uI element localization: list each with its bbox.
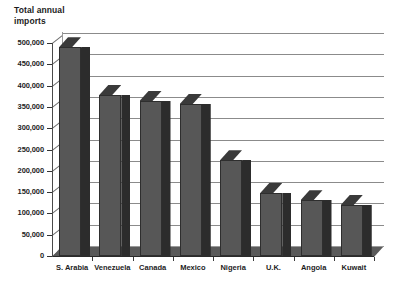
x-axis-label: Mexico bbox=[180, 263, 205, 272]
y-axis-tick bbox=[47, 150, 52, 151]
x-axis-tick bbox=[294, 257, 295, 261]
bar-angola[interactable] bbox=[301, 190, 323, 256]
y-axis-tick bbox=[47, 235, 52, 236]
bar-front-face bbox=[341, 205, 363, 256]
bar-front-face bbox=[99, 95, 121, 256]
y-axis-label: 100,000 bbox=[18, 208, 44, 217]
chart-screenshot: Total annual imports 050,000100,000150,0… bbox=[0, 0, 400, 286]
gridline bbox=[62, 54, 384, 55]
x-axis-tick bbox=[334, 257, 335, 261]
bar-front-face bbox=[301, 200, 323, 256]
bar-mexico[interactable] bbox=[180, 94, 202, 256]
bar-top-face bbox=[140, 91, 162, 101]
gridline bbox=[62, 33, 384, 34]
bar-front-face bbox=[260, 193, 282, 256]
y-axis-label: 350,000 bbox=[18, 102, 44, 111]
y-axis-tick bbox=[47, 213, 52, 214]
y-axis-tick bbox=[47, 128, 52, 129]
bar-u-k[interactable] bbox=[260, 183, 282, 256]
bar-side-face bbox=[363, 205, 372, 256]
bar-front-face bbox=[220, 160, 242, 256]
bar-front-face bbox=[140, 101, 162, 256]
bar-top-face bbox=[220, 150, 242, 160]
bar-side-face bbox=[81, 47, 90, 256]
y-axis-label: 50,000 bbox=[22, 230, 44, 239]
x-axis-label: Angola bbox=[301, 263, 326, 272]
x-axis-label: Nigeria bbox=[220, 263, 245, 272]
bar-venezuela[interactable] bbox=[99, 85, 121, 256]
bar-kuwait[interactable] bbox=[341, 195, 363, 256]
bar-top-face bbox=[99, 85, 121, 95]
x-axis-tick bbox=[213, 257, 214, 261]
bar-front-face bbox=[59, 47, 81, 256]
x-axis-tick bbox=[374, 257, 375, 261]
x-axis-label: S. Arabia bbox=[56, 263, 88, 272]
bar-top-face bbox=[180, 94, 202, 104]
x-axis-label: Canada bbox=[139, 263, 166, 272]
y-axis-tick bbox=[47, 171, 52, 172]
y-axis-label: 450,000 bbox=[18, 59, 44, 68]
bar-top-face bbox=[59, 37, 81, 47]
bar-s-arabia[interactable] bbox=[59, 37, 81, 256]
y-axis-label: 200,000 bbox=[18, 166, 44, 175]
bar-top-face bbox=[341, 195, 363, 205]
y-axis-label: 0 bbox=[40, 251, 44, 260]
bar-side-face bbox=[162, 101, 171, 256]
x-axis-tick bbox=[173, 257, 174, 261]
bar-side-face bbox=[121, 95, 130, 256]
y-axis-label: 150,000 bbox=[18, 187, 44, 196]
bar-front-face bbox=[180, 104, 202, 256]
bar-canada[interactable] bbox=[140, 91, 162, 256]
bar-side-face bbox=[202, 104, 211, 256]
x-axis-label: Kuwait bbox=[342, 263, 367, 272]
y-axis-label: 400,000 bbox=[18, 81, 44, 90]
plot-area: 050,000100,000150,000200,000250,000300,0… bbox=[0, 0, 400, 286]
x-axis-tick bbox=[253, 257, 254, 261]
bar-side-face bbox=[242, 160, 251, 256]
gridline bbox=[62, 76, 384, 77]
x-axis-label: U.K. bbox=[266, 263, 281, 272]
y-axis-tick bbox=[47, 192, 52, 193]
y-axis-tick bbox=[47, 256, 52, 257]
bar-top-face bbox=[301, 190, 323, 200]
y-axis-tick bbox=[47, 107, 52, 108]
x-axis-label: Venezuela bbox=[94, 263, 130, 272]
bar-nigeria[interactable] bbox=[220, 150, 242, 256]
y-axis-label: 300,000 bbox=[18, 123, 44, 132]
x-axis-tick bbox=[92, 257, 93, 261]
bar-top-face bbox=[260, 183, 282, 193]
x-axis-tick bbox=[133, 257, 134, 261]
y-axis-label: 500,000 bbox=[18, 38, 44, 47]
y-axis-tick bbox=[47, 86, 52, 87]
value-axis-line bbox=[52, 43, 53, 257]
y-axis-tick bbox=[47, 43, 52, 44]
bar-side-face bbox=[323, 200, 332, 256]
y-axis-tick bbox=[47, 64, 52, 65]
bar-side-face bbox=[282, 193, 291, 256]
y-axis-label: 250,000 bbox=[18, 145, 44, 154]
